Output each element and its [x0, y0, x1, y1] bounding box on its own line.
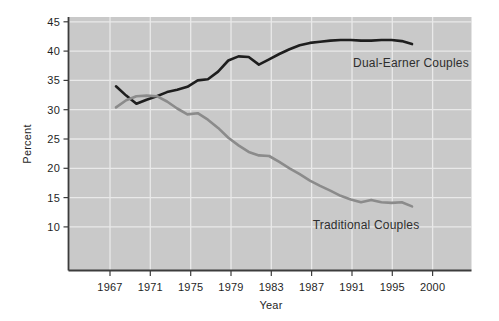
x-tick-label: 1979	[218, 281, 243, 293]
x-axis-title: Year	[259, 299, 282, 311]
figure: 4540353025201510196719711975197919831987…	[0, 0, 499, 321]
x-tick-label: 1991	[339, 281, 364, 293]
x-tick-label: 1987	[299, 281, 324, 293]
y-tick-label: 15	[47, 192, 60, 204]
line-chart: 4540353025201510196719711975197919831987…	[0, 0, 499, 321]
x-tick-label: 2000	[420, 281, 445, 293]
y-tick-label: 45	[47, 16, 60, 28]
x-tick-label: 1983	[259, 281, 284, 293]
x-tick-label: 1995	[380, 281, 405, 293]
y-tick-label: 10	[47, 221, 60, 233]
y-tick-label: 20	[47, 162, 60, 174]
series-label-dual-earner-couples: Dual-Earner Couples	[353, 56, 469, 70]
y-tick-label: 35	[47, 74, 60, 86]
x-tick-label: 1971	[138, 281, 163, 293]
y-tick-label: 25	[47, 133, 60, 145]
x-tick-label: 1967	[97, 281, 122, 293]
series-label-traditional-couples: Traditional Couples	[313, 218, 420, 232]
y-tick-label: 30	[47, 104, 60, 116]
y-tick-label: 40	[47, 45, 60, 57]
x-tick-label: 1975	[178, 281, 203, 293]
y-axis-title: Percent	[21, 124, 33, 163]
